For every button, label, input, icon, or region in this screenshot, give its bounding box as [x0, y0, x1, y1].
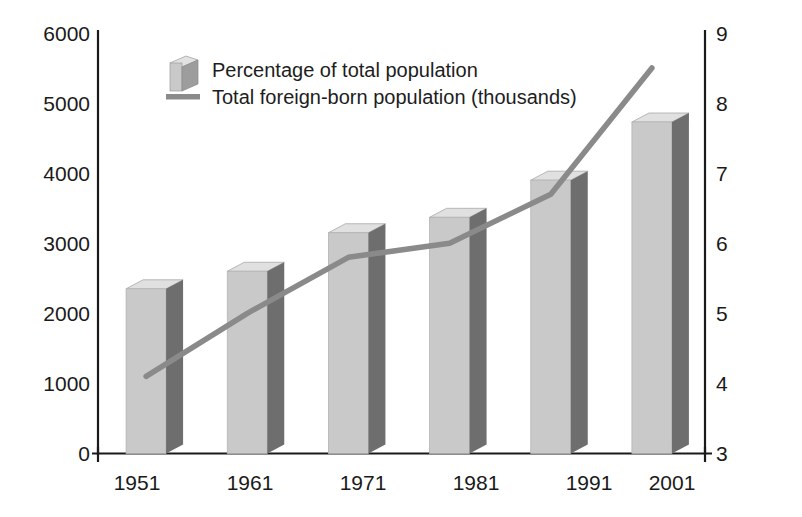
- legend-marker-bar-swatch: [170, 56, 198, 91]
- bar-side-face: [672, 113, 689, 453]
- right-tick-label-4: 4: [716, 372, 728, 395]
- bar-side-face: [267, 262, 284, 453]
- right-tick-label-8: 8: [716, 92, 728, 115]
- bar-side-face: [571, 171, 588, 453]
- right-tick-label-9: 9: [716, 22, 728, 45]
- right-tick-label-3: 3: [716, 442, 728, 465]
- left-tick-label-0: 0: [78, 442, 90, 465]
- legend-marker-line-swatch: [166, 94, 200, 100]
- left-tick-label-1000: 1000: [43, 372, 90, 395]
- left-tick-label-2000: 2000: [43, 302, 90, 325]
- right-tick-label-6: 6: [716, 232, 728, 255]
- chart-container: 6000 5000 4000 3000 2000 1000 0 9 8 7 6: [0, 0, 802, 517]
- bar-side-face: [470, 208, 487, 453]
- bar-front-face: [430, 217, 470, 453]
- x-tick-label-2001: 2001: [649, 471, 696, 494]
- bar-1951: [126, 280, 183, 454]
- right-tick-label-5: 5: [716, 302, 728, 325]
- x-tick-label-1961: 1961: [227, 471, 274, 494]
- bar-front-face: [632, 122, 672, 453]
- bar-front-face: [227, 271, 267, 453]
- left-tick-label-5000: 5000: [43, 92, 90, 115]
- left-tick-label-6000: 6000: [43, 22, 90, 45]
- combo-bar-line-chart: 6000 5000 4000 3000 2000 1000 0 9 8 7 6: [0, 0, 802, 517]
- bar-side-face: [166, 280, 183, 454]
- right-tick-label-7: 7: [716, 162, 728, 185]
- bar-1991: [531, 171, 588, 453]
- x-tick-label-1951: 1951: [114, 471, 161, 494]
- bar-1961: [227, 262, 284, 453]
- left-tick-label-4000: 4000: [43, 162, 90, 185]
- bar-side-face: [368, 224, 385, 454]
- legend-label-foreign-born: Total foreign-born population (thousands…: [212, 86, 577, 108]
- bar-front-face: [531, 180, 571, 453]
- bar-2001: [632, 113, 689, 453]
- left-tick-label-3000: 3000: [43, 232, 90, 255]
- x-tick-label-1991: 1991: [566, 471, 613, 494]
- legend-label-percentage: Percentage of total population: [212, 59, 478, 81]
- x-tick-label-1971: 1971: [340, 471, 387, 494]
- bar-front-face: [126, 289, 166, 454]
- x-tick-label-1981: 1981: [453, 471, 500, 494]
